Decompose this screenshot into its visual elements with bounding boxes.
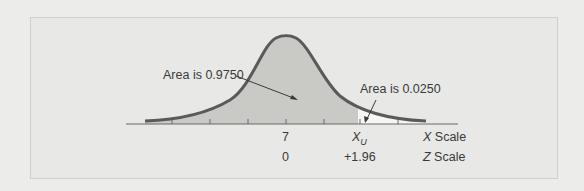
z-scale-label: Z Scale: [423, 150, 465, 164]
normal-curve-chart: [0, 0, 584, 191]
area-left-label: Area is 0.9750: [163, 68, 244, 82]
z-critical-tick-label: +1.96: [344, 150, 376, 164]
x-scale-word: Scale: [431, 130, 466, 144]
x-critical-subscript: U: [360, 137, 367, 147]
x-critical-tick-label: XU: [352, 130, 367, 147]
x-mean-tick-label: 7: [282, 130, 289, 144]
z-mean-tick-label: 0: [282, 150, 289, 164]
z-scale-word: Scale: [431, 150, 466, 164]
area-right-label: Area is 0.0250: [360, 82, 441, 96]
z-scale-var: Z: [423, 150, 431, 164]
x-scale-label: X Scale: [423, 130, 466, 144]
